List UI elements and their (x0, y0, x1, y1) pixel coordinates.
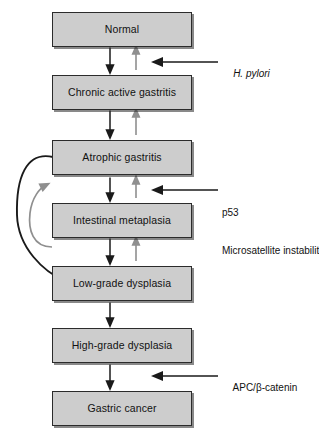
annotation-h-pylori-line1: H. pylori (233, 68, 270, 79)
diagram-canvas: Normal Chronic active gastritis Atrophic… (0, 0, 319, 434)
annotation-apc-line1: APC/β-catenin (233, 382, 298, 393)
node-normal-label: Normal (105, 24, 139, 35)
node-high-grade-dysplasia[interactable]: High-grade dysplasia (52, 328, 192, 363)
node-low-grade-dysplasia-label: Low-grade dysplasia (73, 278, 171, 289)
node-chronic-active-gastritis-label: Chronic active gastritis (68, 87, 176, 98)
annotation-apc-beta-catenin: APC/β-catenin (222, 369, 297, 407)
annotation-h-pylori: H. pylori (222, 55, 270, 93)
annotation-p53-line1: p53 (222, 207, 319, 220)
node-chronic-active-gastritis[interactable]: Chronic active gastritis (52, 75, 192, 110)
node-atrophic-gastritis-label: Atrophic gastritis (82, 152, 161, 163)
node-high-grade-dysplasia-label: High-grade dysplasia (72, 340, 173, 351)
node-atrophic-gastritis[interactable]: Atrophic gastritis (52, 140, 192, 175)
node-gastric-cancer[interactable]: Gastric cancer (52, 391, 192, 426)
node-low-grade-dysplasia[interactable]: Low-grade dysplasia (52, 266, 192, 301)
node-normal[interactable]: Normal (52, 12, 192, 47)
annotation-p53-microsatellite: p53 Microsatellite instability (222, 182, 319, 282)
node-intestinal-metaplasia-label: Intestinal metaplasia (73, 215, 171, 226)
annotation-p53-line2: Microsatellite instability (222, 245, 319, 258)
node-intestinal-metaplasia[interactable]: Intestinal metaplasia (52, 203, 192, 238)
node-gastric-cancer-label: Gastric cancer (87, 403, 156, 414)
